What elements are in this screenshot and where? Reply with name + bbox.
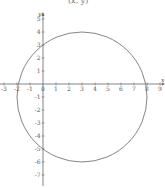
- x-tick-label: -3: [1, 85, 7, 92]
- caption-fragment: (x, y): [68, 0, 88, 5]
- axes: [0, 12, 165, 186]
- tick-marks: [4, 19, 160, 175]
- y-tick-label: -6: [35, 158, 41, 165]
- y-tick-label: -2: [35, 106, 41, 113]
- x-tick-label: 4: [93, 85, 97, 92]
- y-tick-label: 4: [37, 28, 41, 35]
- y-tick-label: 1: [37, 67, 41, 74]
- x-tick-label: 6: [119, 85, 123, 92]
- y-tick-label: -3: [35, 119, 41, 126]
- x-tick-label: 7: [132, 85, 136, 92]
- x-tick-label: 3: [80, 85, 84, 92]
- x-tick-label: 1: [54, 85, 58, 92]
- circle-plot: (x, y) -3-2-10123456789-7-6-5-4-3-2-1123…: [0, 0, 165, 188]
- y-tick-label: -1: [35, 93, 41, 100]
- y-axis-label: y: [37, 10, 42, 18]
- y-tick-label: -4: [35, 132, 41, 139]
- y-tick-label: 2: [37, 54, 41, 61]
- x-axis-label: x: [161, 76, 165, 83]
- y-tick-label: -7: [35, 171, 41, 178]
- x-tick-label: 5: [106, 85, 110, 92]
- y-arrow-icon: [42, 12, 45, 16]
- x-tick-label: 2: [67, 85, 71, 92]
- x-tick-label: -1: [27, 85, 33, 92]
- tick-labels: -3-2-10123456789-7-6-5-4-3-2-112345: [1, 15, 162, 178]
- x-tick-label: 9: [158, 85, 162, 92]
- x-tick-label: 0: [41, 85, 45, 92]
